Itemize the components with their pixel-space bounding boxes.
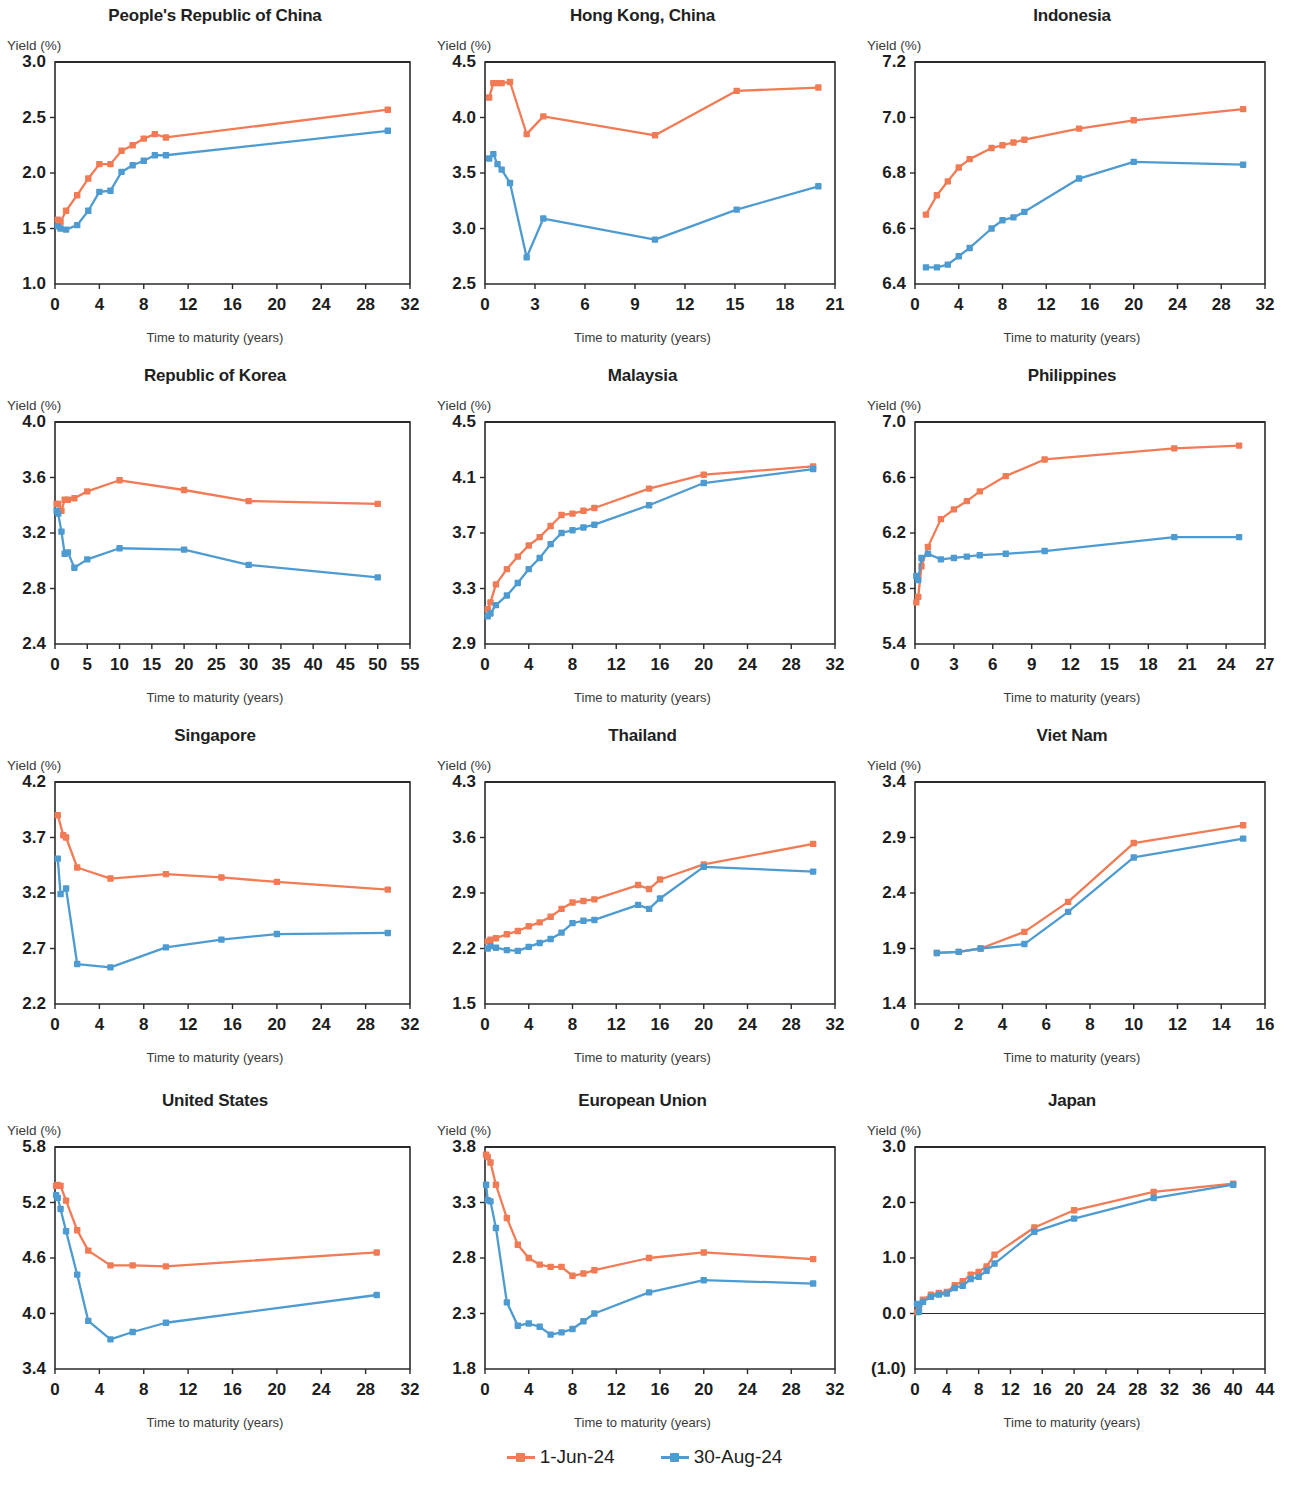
- data-point-marker: [983, 1268, 989, 1274]
- x-tick-label: 16: [1033, 1380, 1052, 1399]
- data-point-marker: [956, 253, 962, 259]
- data-point-marker: [487, 1159, 493, 1165]
- x-tick-label: 8: [568, 1380, 577, 1399]
- data-point-marker: [914, 1301, 920, 1307]
- data-point-marker: [85, 208, 91, 214]
- data-point-marker: [85, 1318, 91, 1324]
- y-tick-label: 7.2: [882, 52, 906, 71]
- x-tick-label: 24: [738, 1380, 757, 1399]
- data-point-marker: [960, 1283, 966, 1289]
- data-point-marker: [569, 510, 575, 516]
- chart-panel-malaysia: MalaysiaYield (%)Time to maturity (years…: [430, 360, 855, 720]
- data-point-marker: [493, 1225, 499, 1231]
- data-point-marker: [646, 502, 652, 508]
- data-point-marker: [635, 902, 641, 908]
- data-point-marker: [1131, 854, 1137, 860]
- series-line-1: [926, 109, 1243, 214]
- data-point-marker: [536, 534, 542, 540]
- data-point-marker: [580, 508, 586, 514]
- x-tick-label: 15: [1100, 655, 1119, 674]
- y-tick-label: 2.4: [22, 634, 46, 653]
- x-tick-label: 24: [312, 295, 331, 314]
- y-tick-label: 5.2: [22, 1193, 46, 1212]
- x-tick-label: 20: [694, 1380, 713, 1399]
- x-tick-label: 16: [651, 1015, 670, 1034]
- data-point-marker: [928, 1294, 934, 1300]
- plot-frame: [485, 782, 835, 1004]
- y-tick-label: 4.6: [22, 1248, 46, 1267]
- series-line-1: [488, 844, 813, 942]
- data-point-marker: [956, 949, 962, 955]
- data-point-marker: [810, 841, 816, 847]
- x-tick-label: 32: [826, 1380, 845, 1399]
- data-point-marker: [580, 1270, 586, 1276]
- data-point-marker: [977, 552, 983, 558]
- data-point-marker: [925, 544, 931, 550]
- data-point-marker: [536, 940, 542, 946]
- data-point-marker: [493, 602, 499, 608]
- y-tick-label: 3.4: [882, 772, 906, 791]
- y-tick-label: 2.9: [882, 828, 906, 847]
- data-point-marker: [1150, 1189, 1156, 1195]
- x-tick-label: 36: [1192, 1380, 1211, 1399]
- data-point-marker: [1065, 909, 1071, 915]
- chart-legend: 1-Jun-2430-Aug-24: [0, 1446, 1289, 1468]
- chart-panel-singapore: SingaporeYield (%)Time to maturity (year…: [0, 720, 430, 1085]
- legend-swatch-icon: [661, 1451, 689, 1463]
- data-point-marker: [1240, 822, 1246, 828]
- x-tick-label: 8: [998, 295, 1007, 314]
- y-tick-label: 5.8: [22, 1137, 46, 1156]
- data-point-marker: [63, 208, 69, 214]
- data-point-marker: [558, 1264, 564, 1270]
- data-point-marker: [547, 936, 553, 942]
- data-point-marker: [1076, 125, 1082, 131]
- data-point-marker: [163, 871, 169, 877]
- data-point-marker: [85, 1247, 91, 1253]
- x-tick-label: 4: [998, 1015, 1008, 1034]
- chart-panel-japan: JapanYield (%)Time to maturity (years)(1…: [855, 1085, 1289, 1440]
- x-tick-label: 8: [568, 1015, 577, 1034]
- data-point-marker: [218, 936, 224, 942]
- legend-label: 1-Jun-24: [540, 1446, 615, 1468]
- y-tick-label: 6.6: [882, 468, 906, 487]
- data-point-marker: [152, 152, 158, 158]
- y-tick-label: 3.4: [22, 1359, 46, 1378]
- y-tick-label: 2.9: [452, 883, 476, 902]
- x-tick-label: 0: [50, 1380, 59, 1399]
- data-point-marker: [1236, 534, 1242, 540]
- y-tick-label: 2.2: [452, 939, 476, 958]
- y-tick-label: 3.6: [452, 828, 476, 847]
- data-point-marker: [63, 885, 69, 891]
- x-tick-label: 21: [1178, 655, 1197, 674]
- x-tick-label: 0: [910, 655, 919, 674]
- data-point-marker: [55, 855, 61, 861]
- y-tick-label: 5.8: [882, 579, 906, 598]
- plot-area: 3.44.04.65.25.8048121620242832: [0, 1085, 434, 1427]
- data-point-marker: [966, 156, 972, 162]
- data-point-marker: [547, 1264, 553, 1270]
- data-point-marker: [515, 928, 521, 934]
- data-point-marker: [55, 1195, 61, 1201]
- data-point-marker: [934, 192, 940, 198]
- chart-panel-european-union: European UnionYield (%)Time to maturity …: [430, 1085, 855, 1440]
- data-point-marker: [118, 169, 124, 175]
- data-point-marker: [547, 914, 553, 920]
- data-point-marker: [934, 264, 940, 270]
- data-point-marker: [523, 254, 529, 260]
- data-point-marker: [129, 1262, 135, 1268]
- data-point-marker: [591, 505, 597, 511]
- x-tick-label: 8: [974, 1380, 983, 1399]
- x-tick-label: 0: [50, 1015, 59, 1034]
- x-tick-label: 20: [175, 655, 194, 674]
- data-point-marker: [374, 1249, 380, 1255]
- y-tick-label: 4.0: [22, 412, 46, 431]
- data-point-marker: [991, 1260, 997, 1266]
- data-point-marker: [118, 148, 124, 154]
- x-tick-label: 9: [630, 295, 639, 314]
- data-point-marker: [55, 812, 61, 818]
- x-tick-label: 27: [1256, 655, 1275, 674]
- data-point-marker: [569, 1326, 575, 1332]
- x-tick-label: 4: [95, 1380, 105, 1399]
- data-point-marker: [1076, 175, 1082, 181]
- plot-area: 5.45.86.26.67.00369121518212427: [855, 360, 1289, 702]
